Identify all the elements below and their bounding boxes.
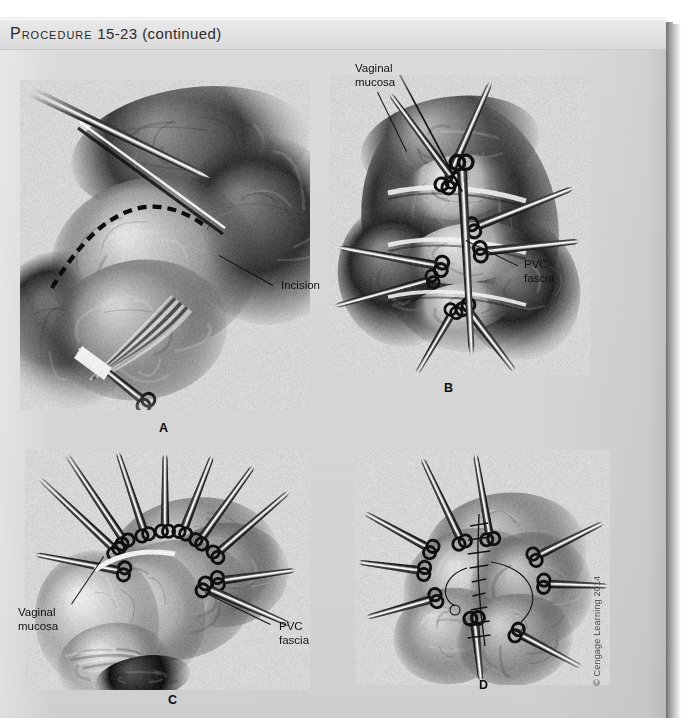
figure-panel-c xyxy=(25,450,310,690)
page-edge-shadow xyxy=(673,24,681,718)
panel-letter-c: C xyxy=(168,693,177,707)
pvc-fascia-line2: fascia xyxy=(279,634,309,648)
page-edge xyxy=(666,22,673,718)
vaginal-mucosa-label-b: Vaginal mucosa xyxy=(355,62,395,89)
panel-letter-d: D xyxy=(479,678,488,692)
vaginal-mucosa-line2: mucosa xyxy=(18,620,58,634)
panel-b-illustration xyxy=(330,75,590,375)
page-title: Procedure 15-23 (continued) xyxy=(10,25,222,43)
pvc-fascia-line1: PVC xyxy=(279,620,309,634)
panel-a-illustration xyxy=(20,80,310,410)
figure-panel-d xyxy=(355,450,610,685)
textbook-page: Procedure 15-23 (continued) Incision A V… xyxy=(0,0,690,718)
pvc-fascia-line1: PVC xyxy=(524,258,554,272)
panel-letter-b: B xyxy=(444,381,453,395)
vaginal-mucosa-line1: Vaginal xyxy=(355,62,395,76)
incision-label: Incision xyxy=(281,279,320,292)
panel-d-illustration xyxy=(355,450,610,685)
vaginal-mucosa-line1: Vaginal xyxy=(18,606,58,620)
figure-panel-a xyxy=(20,80,310,410)
pvc-fascia-label-c: PVC fascia xyxy=(279,620,309,647)
procedure-word: Procedure xyxy=(10,25,93,42)
procedure-number: 15-23 xyxy=(97,25,137,42)
figure-panel-b xyxy=(330,75,590,375)
copyright-notice: © Cengage Learning 2014 xyxy=(592,576,602,686)
continued-note: (continued) xyxy=(142,25,221,42)
panel-c-illustration xyxy=(25,450,310,690)
pvc-fascia-label-b: PVC fascia xyxy=(524,258,554,285)
vaginal-mucosa-label-c: Vaginal mucosa xyxy=(18,606,58,633)
vaginal-mucosa-line2: mucosa xyxy=(355,76,395,90)
panel-letter-a: A xyxy=(159,421,168,435)
pvc-fascia-line2: fascia xyxy=(524,272,554,286)
